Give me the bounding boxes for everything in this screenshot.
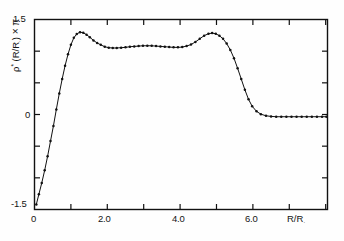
y-axis-title-rho: ρ (10, 67, 21, 72)
data-point (311, 115, 314, 118)
data-point (116, 47, 119, 50)
x-tick-label-4: 4.0 (172, 213, 185, 224)
y-tick-label-mid: 0 (25, 109, 30, 120)
data-point (177, 46, 180, 49)
data-point (58, 92, 61, 95)
data-point (164, 45, 167, 48)
y-axis-title-wrapper: ρ* (R/R.) × π (7, 0, 21, 72)
data-point (229, 49, 232, 52)
data-point (185, 45, 188, 48)
data-point (203, 34, 206, 37)
data-point (38, 193, 41, 196)
data-point (75, 33, 78, 36)
data-point (247, 98, 250, 101)
data-point (172, 46, 175, 49)
data-point (275, 115, 278, 118)
y-axis-title-star: * (10, 64, 17, 67)
data-point (52, 125, 55, 128)
data-point (295, 115, 298, 118)
data-point (255, 110, 258, 113)
data-point (89, 36, 92, 39)
data-point (306, 115, 309, 118)
data-point (85, 33, 88, 36)
data-point (79, 31, 82, 34)
data-point (190, 43, 193, 46)
data-point (290, 115, 293, 118)
data-point (316, 115, 319, 118)
data-markers-0 (35, 31, 328, 206)
data-point (146, 45, 149, 48)
figure-canvas: 1.5 0 -1.5 0 2.0 4.0 6.0 R/R. ρ* (R/R.) … (0, 0, 344, 241)
data-point (159, 45, 162, 48)
x-axis-title-subscript: . (303, 218, 305, 224)
data-point (325, 115, 328, 118)
plot-frame (35, 20, 328, 210)
data-point (300, 115, 303, 118)
data-point (73, 37, 76, 40)
y-tick-label-bottom: -1.5 (11, 198, 27, 209)
x-tick-label-0: 0 (31, 213, 36, 224)
data-point (270, 115, 273, 118)
data-point (46, 155, 49, 158)
data-point (265, 115, 268, 118)
data-point (225, 42, 228, 45)
y-axis-title-arg-end: ) (10, 37, 21, 40)
data-point (99, 44, 102, 47)
y-axis-title: ρ* (R/R.) × π (7, 0, 25, 72)
data-point (64, 64, 67, 67)
y-axis-title-arg-subscript: . (15, 40, 21, 42)
data-point (150, 45, 153, 48)
data-point (41, 182, 44, 185)
data-point (67, 53, 70, 56)
data-point (133, 45, 136, 48)
data-point (35, 203, 38, 206)
data-point (142, 45, 145, 48)
data-line-0 (36, 32, 326, 204)
x-tick-label-6: 6.0 (245, 213, 258, 224)
x-axis-title: R/R. (287, 213, 305, 224)
data-point (207, 33, 210, 36)
plot-area (0, 0, 344, 241)
data-point (108, 46, 111, 49)
data-point (104, 45, 107, 48)
data-point (280, 115, 283, 118)
data-point (124, 46, 127, 49)
data-point (112, 47, 115, 50)
data-point (55, 108, 58, 111)
data-point (215, 33, 218, 36)
data-point (43, 169, 46, 172)
data-point (244, 89, 247, 92)
data-point (168, 46, 171, 49)
data-point (120, 46, 123, 49)
data-point (49, 140, 52, 143)
y-axis-title-arg: (R/R (10, 42, 21, 64)
data-point (321, 115, 324, 118)
data-point (251, 105, 254, 108)
data-point (194, 41, 197, 44)
data-point (96, 42, 99, 45)
y-axis-title-times: × π (10, 19, 21, 37)
data-point (181, 46, 184, 49)
x-tick-label-2: 2.0 (98, 213, 111, 224)
data-point (222, 38, 225, 41)
data-point (211, 32, 214, 35)
data-point (198, 38, 201, 41)
data-point (70, 44, 73, 47)
data-point (92, 39, 95, 42)
data-point (240, 78, 243, 81)
data-point (82, 32, 85, 35)
data-point (260, 113, 263, 116)
data-point (61, 78, 64, 81)
data-point (236, 67, 239, 70)
data-point (129, 45, 132, 48)
data-point (137, 45, 140, 48)
data-point (233, 57, 236, 60)
data-point (285, 115, 288, 118)
x-axis-title-text: R/R (287, 213, 303, 224)
data-point (218, 34, 221, 37)
data-point (155, 45, 158, 48)
